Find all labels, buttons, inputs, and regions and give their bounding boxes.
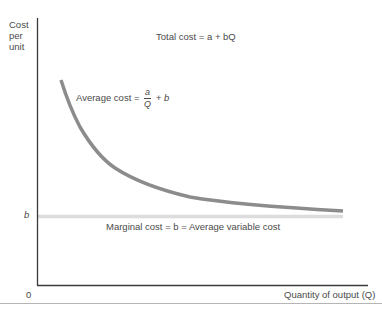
average-cost-annotation: Average cost = a Q + b [76,88,169,109]
cost-chart-canvas [0,0,382,318]
y-axis-label-line-3: unit [9,42,29,53]
fraction-denominator: Q [144,99,151,109]
total-cost-annotation: Total cost = a + bQ [156,32,236,43]
y-tick-b: b [24,210,29,221]
fraction-numerator: a [144,88,151,99]
average-cost-fraction: a Q [144,88,151,109]
average-cost-suffix: + b [156,92,169,103]
marginal-cost-annotation: Marginal cost = b = Average variable cos… [106,222,280,233]
y-axis-label: Cost per unit [9,20,29,53]
origin-label: 0 [26,290,31,301]
x-axis-label: Quantity of output (Q) [284,290,375,301]
average-cost-prefix: Average cost = [76,92,139,103]
